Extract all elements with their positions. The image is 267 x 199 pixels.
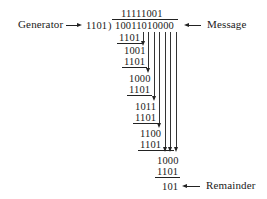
message-label: Message: [207, 19, 247, 30]
step-partial: 1100: [140, 128, 161, 139]
step-underline: [155, 177, 180, 178]
step-subtract: 1101: [119, 32, 140, 43]
step-subtract: 1101: [140, 139, 161, 150]
step-partial: 1001: [124, 45, 146, 56]
step-subtract: 1101: [129, 84, 150, 95]
remainder-label: Remainder: [206, 180, 256, 191]
step-partial: 1000: [157, 155, 179, 166]
step-subtract: 1101: [124, 56, 145, 67]
step-underline: [133, 123, 158, 124]
division-bracket: ): [108, 20, 112, 31]
remainder: 101: [162, 181, 178, 192]
step-subtract: 1101: [157, 166, 178, 177]
dividend: 10011010000: [115, 20, 174, 31]
divisor: 1101: [86, 20, 107, 31]
step-subtract: 1101: [135, 112, 156, 123]
step-underline: [117, 43, 142, 44]
step-partial: 1011: [135, 101, 156, 112]
generator-label: Generator: [18, 19, 63, 30]
step-partial: 1000: [129, 73, 151, 84]
quotient: 11111001: [121, 8, 163, 19]
step-underline: [127, 95, 152, 96]
step-underline: [122, 67, 147, 68]
